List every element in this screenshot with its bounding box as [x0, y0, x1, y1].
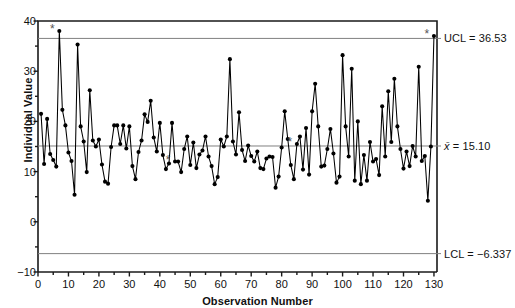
plot-canvas: ****: [0, 0, 515, 308]
data-point: [404, 149, 408, 153]
data-point: [380, 104, 384, 108]
data-point: [255, 149, 259, 153]
x-tick-label: 40: [154, 278, 166, 290]
data-point: [341, 53, 345, 57]
data-point: [368, 140, 372, 144]
y-axis-tick-labels: 403020100−10: [0, 0, 36, 308]
lcl-label: LCL = −6.337: [444, 248, 511, 260]
data-point: [353, 179, 357, 183]
data-point: [42, 162, 46, 166]
data-point: [426, 199, 430, 203]
data-point: [408, 164, 412, 168]
data-point: [334, 181, 338, 185]
data-point: [200, 148, 204, 152]
data-point: [304, 126, 308, 130]
data-point: [374, 157, 378, 161]
y-tick-label: 40: [24, 15, 36, 27]
data-point: [392, 77, 396, 81]
data-point: [127, 124, 131, 128]
series-markers: [39, 29, 436, 203]
x-tick-label: 130: [425, 278, 443, 290]
data-point: [152, 135, 156, 139]
data-point: [179, 170, 183, 174]
data-point: [82, 139, 86, 143]
data-point: [216, 175, 220, 179]
data-point: [243, 159, 247, 163]
data-point: [432, 34, 436, 38]
data-point: [414, 154, 418, 158]
data-point: [377, 173, 381, 177]
data-point: [231, 139, 235, 143]
data-point: [359, 182, 363, 186]
data-point: [54, 165, 58, 169]
data-point: [313, 82, 317, 86]
data-point: [149, 99, 153, 103]
data-point: [124, 146, 128, 150]
data-point: [389, 140, 393, 144]
data-point: [316, 124, 320, 128]
data-point: [207, 154, 211, 158]
data-point: [85, 170, 89, 174]
data-point: [210, 164, 214, 168]
y-tick-label: −10: [17, 266, 36, 278]
data-point: [411, 144, 415, 148]
data-point: [170, 121, 174, 125]
data-point: [185, 134, 189, 138]
out-of-control-asterisk: *: [288, 135, 293, 149]
data-point: [158, 121, 162, 125]
x-tick-label: 70: [245, 278, 257, 290]
data-point: [191, 140, 195, 144]
data-point: [106, 182, 110, 186]
data-point: [222, 144, 226, 148]
data-point: [155, 149, 159, 153]
data-point: [97, 137, 101, 141]
x-tick-label: 20: [93, 278, 105, 290]
data-point: [283, 109, 287, 113]
x-tick-label: 90: [306, 278, 318, 290]
data-point: [383, 154, 387, 158]
data-point: [344, 124, 348, 128]
data-point: [45, 117, 49, 121]
data-point: [79, 124, 83, 128]
data-point: [270, 155, 274, 159]
ucl-label: UCL = 36.53: [444, 32, 507, 44]
data-point: [136, 150, 140, 154]
data-point: [94, 144, 98, 148]
data-point: [63, 123, 67, 127]
x-axis-tick-labels: 0102030405060708090100110120130: [0, 278, 515, 294]
x-tick-label: 0: [35, 278, 41, 290]
data-point: [277, 175, 281, 179]
out-of-control-asterisk: *: [166, 153, 171, 167]
out-of-control-asterisk: *: [425, 27, 430, 41]
data-point: [289, 163, 293, 167]
data-point: [197, 152, 201, 156]
data-point: [161, 153, 165, 157]
data-point: [240, 148, 244, 152]
y-tick-label: 20: [24, 115, 36, 127]
data-point: [420, 159, 424, 163]
x-tick-label: 100: [333, 278, 351, 290]
data-point: [213, 182, 217, 186]
data-point: [252, 160, 256, 164]
data-point: [194, 166, 198, 170]
center-line-label: x̄ = 15.10: [444, 140, 490, 152]
data-point: [130, 164, 134, 168]
data-point: [356, 119, 360, 123]
data-point: [66, 150, 70, 154]
y-tick-label: 0: [30, 216, 36, 228]
x-tick-label: 80: [276, 278, 288, 290]
x-tick-label: 110: [364, 278, 382, 290]
data-point: [298, 134, 302, 138]
data-point: [146, 120, 150, 124]
out-of-control-asterisk: *: [50, 22, 55, 36]
data-point: [73, 193, 77, 197]
data-point: [91, 138, 95, 142]
data-point: [292, 177, 296, 181]
data-point: [228, 57, 232, 61]
data-point: [237, 110, 241, 114]
data-point: [325, 147, 329, 151]
data-point: [39, 112, 43, 116]
data-point: [182, 147, 186, 151]
data-point: [280, 145, 284, 149]
data-point: [203, 134, 207, 138]
